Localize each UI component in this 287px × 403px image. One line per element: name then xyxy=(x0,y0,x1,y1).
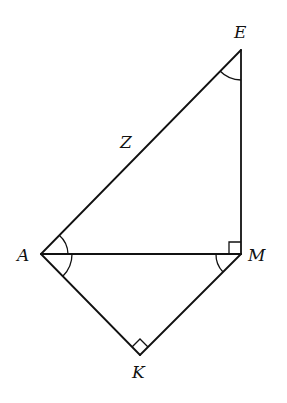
geometry-diagram: E A M K Z xyxy=(0,0,287,403)
segment-km xyxy=(140,254,241,355)
segment-ak xyxy=(41,254,140,355)
vertex-label-e: E xyxy=(233,22,247,42)
vertex-label-k: K xyxy=(131,362,146,382)
right-angle-mark-k xyxy=(132,339,148,347)
angle-arc-a-upper xyxy=(59,235,68,254)
angle-arc-e xyxy=(220,71,241,80)
vertex-label-a: A xyxy=(15,245,29,265)
angle-arc-m xyxy=(216,254,223,272)
vertex-label-m: M xyxy=(247,245,266,265)
side-label-z: Z xyxy=(119,132,133,152)
right-angle-mark-m xyxy=(229,242,241,254)
angle-arc-a-lower xyxy=(63,254,72,276)
segment-ae xyxy=(41,50,241,254)
